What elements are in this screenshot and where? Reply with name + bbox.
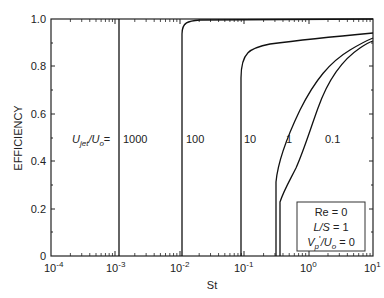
y-tick-labels: 0 0.2 0.4 0.6 0.8 1.0 <box>31 13 46 262</box>
curve-label-1000: 1000 <box>123 133 147 145</box>
param-re: Re = 0 <box>315 206 348 218</box>
x-tick-label: 10-1 <box>234 260 254 274</box>
y-axis-title: EFFICIENCY <box>12 105 24 171</box>
param-ls: L/S = 1 <box>313 221 348 233</box>
x-axis-title: St <box>207 279 217 291</box>
x-tick-label: 100 <box>300 260 317 274</box>
x-tick-label: 101 <box>364 260 381 274</box>
parameter-box: Re = 0 L/S = 1 Vp'/Uo = 0 <box>297 202 365 251</box>
curve-label-0.1: 0.1 <box>325 133 340 145</box>
curve-label-1: 1 <box>286 133 292 145</box>
y-tick-label: 0.6 <box>31 108 46 120</box>
y-tick-label: 1.0 <box>31 13 46 25</box>
curve-label-100: 100 <box>186 133 204 145</box>
x-tick-label: 10-3 <box>106 260 126 274</box>
x-tick-labels: 10-4 10-3 10-2 10-1 100 101 <box>44 260 381 274</box>
curve-label-10: 10 <box>244 133 256 145</box>
y-tick-label: 0.4 <box>31 155 46 167</box>
y-tick-label: 0 <box>40 250 46 262</box>
x-tick-label: 10-2 <box>170 260 190 274</box>
efficiency-chart: 0 0.2 0.4 0.6 0.8 1.0 10-4 10-3 10-2 10-… <box>0 0 384 298</box>
y-tick-label: 0.8 <box>31 60 46 72</box>
curve-labels: Ujet/Uo= 1000 100 10 1 0.1 <box>72 133 340 148</box>
y-tick-label: 0.2 <box>31 203 46 215</box>
curve-label-prefix: Ujet/Uo= <box>72 133 110 148</box>
x-tick-label: 10-4 <box>44 260 64 274</box>
